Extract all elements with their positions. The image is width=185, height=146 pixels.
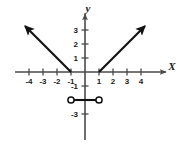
open-point-left	[68, 97, 74, 103]
y-tick-label-1: 1	[74, 54, 79, 63]
x-tick-label--2: -2	[53, 77, 61, 86]
x-axis-label: X	[167, 60, 176, 72]
y-axis	[82, 14, 89, 140]
x-axis	[15, 69, 166, 76]
x-tick-label-4: 4	[139, 77, 144, 86]
x-tick-label--4: -4	[25, 77, 33, 86]
x-tick-label--3: -3	[39, 77, 47, 86]
y-tick-label-3: 3	[74, 26, 79, 35]
x-tick-label-2: 2	[111, 77, 116, 86]
x-tick-label-1: 1	[97, 77, 102, 86]
left-ray	[25, 26, 71, 72]
coordinate-plane-svg: -4 -3 -2 -1 1 2 3 4 3 2 1 -1 -3 X y	[0, 0, 185, 146]
y-tick-label--3: -3	[71, 110, 79, 119]
y-axis-label: y	[84, 2, 91, 14]
y-tick-label-2: 2	[74, 40, 79, 49]
open-point-right	[96, 97, 102, 103]
x-tick-label-3: 3	[125, 77, 130, 86]
y-tick-label--1: -1	[71, 82, 79, 91]
right-ray	[99, 26, 145, 72]
graph-figure: -4 -3 -2 -1 1 2 3 4 3 2 1 -1 -3 X y	[0, 0, 185, 146]
